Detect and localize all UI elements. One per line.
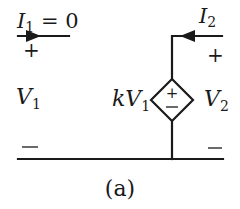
circuit-diagram: I1 = 0 + V1 I2 + + kV1 V2 (a) bbox=[0, 0, 240, 209]
i1-label: I1 = 0 bbox=[16, 9, 79, 35]
source-plus: + bbox=[166, 84, 179, 102]
gain-label: kV1 bbox=[112, 86, 150, 114]
i2-arrow-icon bbox=[180, 30, 195, 42]
i2-label: I2 bbox=[198, 4, 216, 30]
port2-plus: + bbox=[207, 43, 224, 67]
figure-caption: (a) bbox=[105, 176, 135, 201]
v2-label: V2 bbox=[204, 86, 229, 114]
v1-label: V1 bbox=[16, 84, 41, 112]
port1-plus: + bbox=[23, 38, 40, 62]
